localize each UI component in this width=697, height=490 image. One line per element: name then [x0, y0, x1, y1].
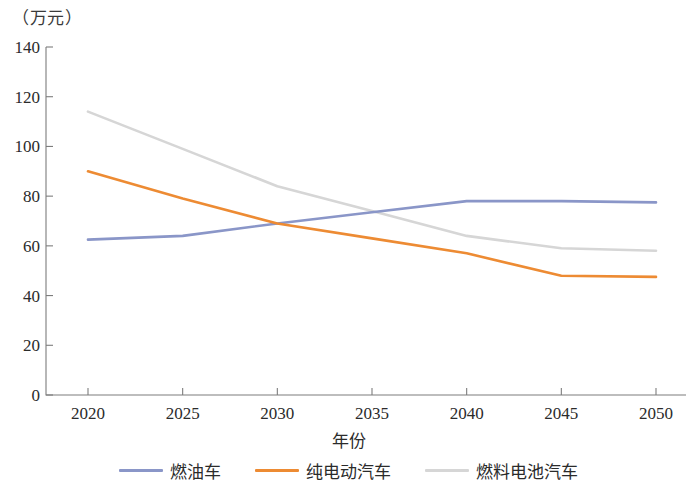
y-tick-label: 60	[23, 237, 40, 256]
x-axis-title: 年份	[0, 427, 697, 452]
legend-label: 燃油车	[170, 458, 221, 483]
legend-item-1[interactable]: 纯电动汽车	[255, 458, 391, 483]
axis-lines	[46, 47, 686, 395]
legend-swatch-icon	[425, 469, 469, 472]
y-tick-label: 80	[23, 187, 40, 206]
x-tick-label: 2020	[71, 404, 105, 423]
chart-legend: 燃油车纯电动汽车燃料电池汽车	[0, 458, 697, 483]
x-tick-label: 2040	[450, 404, 484, 423]
plot-area: 020406080100120140 202020252030203520402…	[0, 0, 697, 430]
legend-swatch-icon	[255, 469, 299, 472]
x-axis-ticks: 2020202520302035204020452050	[71, 388, 673, 423]
x-tick-label: 2045	[544, 404, 578, 423]
x-tick-label: 2035	[355, 404, 389, 423]
series-line-0	[88, 201, 656, 240]
legend-item-2[interactable]: 燃料电池汽车	[425, 458, 578, 483]
x-tick-label: 2030	[260, 404, 294, 423]
series-line-2	[88, 112, 656, 251]
y-tick-label: 40	[23, 287, 40, 306]
y-tick-label: 20	[23, 336, 40, 355]
line-chart: （万元） 020406080100120140 2020202520302035…	[0, 0, 697, 490]
y-tick-label: 0	[32, 386, 41, 405]
x-tick-label: 2025	[166, 404, 200, 423]
legend-label: 纯电动汽车	[306, 458, 391, 483]
y-tick-label: 120	[15, 88, 41, 107]
legend-item-0[interactable]: 燃油车	[119, 458, 221, 483]
x-tick-label: 2050	[639, 404, 673, 423]
y-axis-ticks: 020406080100120140	[15, 38, 54, 405]
legend-label: 燃料电池汽车	[476, 458, 578, 483]
y-tick-label: 100	[15, 137, 41, 156]
y-tick-label: 140	[15, 38, 41, 57]
series-line-1	[88, 171, 656, 277]
legend-swatch-icon	[119, 469, 163, 472]
data-series-group	[88, 112, 656, 277]
